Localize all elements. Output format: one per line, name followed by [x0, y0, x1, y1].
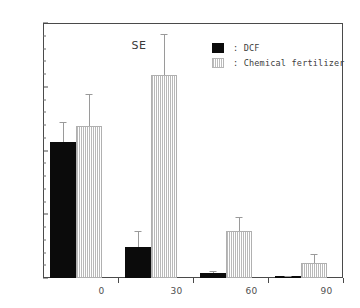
bar-chemical-fertilizer [76, 126, 102, 278]
bar-chemical-fertilizer [301, 263, 327, 278]
legend-swatch-chemical-fertilizer-icon [212, 58, 224, 68]
bar-dcf [125, 247, 151, 278]
bar-dcf [200, 273, 226, 278]
error-bar [138, 231, 139, 248]
x-major-tick [118, 278, 119, 283]
error-bar-cap [59, 122, 66, 123]
error-bar [239, 217, 240, 231]
bar-chart: 050100150200 0306090 SE : DCF : Chemical… [0, 0, 360, 308]
x-major-tick [193, 278, 194, 283]
chart-legend: : DCF : Chemical fertilizer [212, 41, 345, 71]
error-bar-cap [310, 254, 317, 255]
error-bar-cap [134, 231, 141, 232]
legend-item-dcf: : DCF [212, 41, 345, 54]
x-tick-label: 90 [320, 286, 332, 296]
legend-swatch-dcf-icon [212, 43, 224, 53]
error-bar [89, 94, 90, 126]
error-bar [63, 122, 64, 141]
x-tick-label: 60 [245, 286, 257, 296]
error-bar-cap [209, 271, 216, 272]
legend-item-chemical-fertilizer: : Chemical fertilizer [212, 56, 345, 69]
error-bar-cap [284, 276, 291, 277]
error-bar [164, 34, 165, 75]
legend-label-dcf: : DCF [233, 43, 260, 53]
legend-label-chemical-fertilizer: : Chemical fertilizer [233, 58, 345, 68]
se-annotation: SE [132, 39, 147, 52]
y-axis: 050100150200 [0, 0, 43, 308]
x-tick-label: 30 [170, 286, 182, 296]
x-major-tick [343, 278, 344, 283]
x-tick-label: 0 [98, 286, 104, 296]
error-bar-cap [85, 94, 92, 95]
error-bar [314, 254, 315, 263]
bar-chemical-fertilizer [151, 75, 177, 278]
error-bar-cap [235, 217, 242, 218]
x-major-tick [268, 278, 269, 283]
bar-chemical-fertilizer [226, 231, 252, 278]
error-bar-cap [160, 34, 167, 35]
bar-dcf [50, 142, 76, 278]
